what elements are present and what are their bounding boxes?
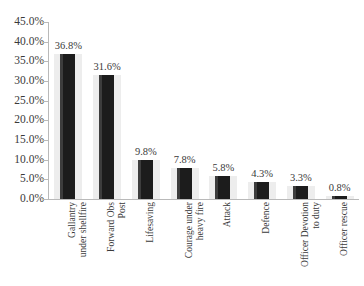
y-axis-tick-mark: [43, 199, 49, 200]
y-axis-tick-mark: [43, 42, 49, 43]
y-axis-tick-mark: [43, 120, 49, 121]
bar-value-label: 5.8%: [212, 162, 234, 173]
x-axis-category-label: Courage under heavy fire: [184, 202, 205, 282]
bar-slot: 7.8%: [166, 22, 204, 199]
plot-area: 36.8%31.6%9.8%7.8%5.8%4.3%3.3%0.8%: [49, 22, 359, 199]
bar-value-label: 7.8%: [174, 154, 196, 165]
bar-slot: 5.8%: [204, 22, 242, 199]
bar[interactable]: 7.8%: [166, 168, 204, 199]
bar-value-label: 36.8%: [55, 40, 82, 51]
x-axis-category-label: Gallantry under shellfire: [67, 202, 88, 282]
bar[interactable]: 31.6%: [88, 75, 126, 199]
y-axis-tick-label: 15.0%: [0, 134, 44, 146]
bar-chart: 45.0%40.0%35.0%30.0%25.0%20.0%15.0%10.0%…: [0, 0, 364, 286]
bar[interactable]: 3.3%: [282, 186, 320, 199]
y-axis-tick-label: 20.0%: [0, 114, 44, 126]
bar-value-label: 4.3%: [251, 168, 273, 179]
y-axis-tick-mark: [43, 140, 49, 141]
x-axis-category-label: Forward Obs Post: [106, 202, 127, 282]
y-axis-tick-label: 5.0%: [0, 173, 44, 185]
bar-fill: [60, 54, 75, 199]
y-axis-tick-mark: [43, 81, 49, 82]
bar-value-label: 0.8%: [329, 182, 351, 193]
bar-fill: [177, 168, 192, 199]
y-axis-tick-label: 25.0%: [0, 95, 44, 107]
y-axis-tick-labels: 45.0%40.0%35.0%30.0%25.0%20.0%15.0%10.0%…: [0, 0, 44, 286]
bar[interactable]: 9.8%: [127, 160, 165, 199]
bar-value-label: 3.3%: [290, 172, 312, 183]
bar-slot: 3.3%: [282, 22, 320, 199]
y-axis-tick-mark: [43, 22, 49, 23]
y-axis-tick-label: 40.0%: [0, 36, 44, 48]
x-axis-category-label: Lifesaving: [145, 202, 156, 282]
y-axis-tick-label: 0.0%: [0, 193, 44, 205]
x-axis-category-labels: Gallantry under shellfireForward Obs Pos…: [49, 202, 359, 286]
y-axis-tick-mark: [43, 101, 49, 102]
bar-fill: [138, 160, 153, 199]
y-axis-tick-label: 45.0%: [0, 16, 44, 28]
bar-value-label: 9.8%: [135, 146, 157, 157]
x-axis-category-label: Officer rescue: [339, 202, 350, 282]
bar[interactable]: 36.8%: [49, 54, 87, 199]
bar[interactable]: 4.3%: [243, 182, 281, 199]
x-axis-category-label: Officer Devotion to duty: [300, 202, 321, 282]
bar-fill: [99, 75, 114, 199]
bar-fill: [293, 186, 308, 199]
clipped-title-remnant: [96, 0, 296, 2]
y-axis-tick-label: 30.0%: [0, 75, 44, 87]
bar-fill: [254, 182, 269, 199]
bar-slot: 9.8%: [127, 22, 165, 199]
y-axis-tick-mark: [43, 61, 49, 62]
bar[interactable]: 0.8%: [321, 196, 359, 199]
bar[interactable]: 5.8%: [204, 176, 242, 199]
y-axis-tick-label: 35.0%: [0, 55, 44, 67]
bar-slot: 4.3%: [243, 22, 281, 199]
x-axis-baseline: [48, 199, 359, 200]
bar-slot: 36.8%: [49, 22, 87, 199]
bar-slot: 31.6%: [88, 22, 126, 199]
bar-value-label: 31.6%: [94, 61, 121, 72]
x-axis-category-label: Defence: [261, 202, 272, 282]
x-axis-category-label: Attack: [222, 202, 233, 282]
y-axis-tick-mark: [43, 179, 49, 180]
bar-fill: [215, 176, 230, 199]
y-axis-tick-mark: [43, 160, 49, 161]
bar-slot: 0.8%: [321, 22, 359, 199]
bar-fill: [332, 196, 347, 199]
y-axis-tick-label: 10.0%: [0, 154, 44, 166]
